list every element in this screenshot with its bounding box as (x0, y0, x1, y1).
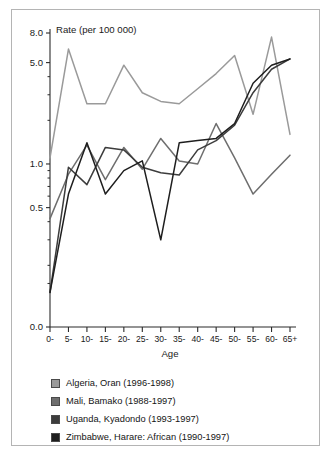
legend-item[interactable]: Algeria, Oran (1996-1998) (0, 374, 331, 392)
y-axis-title: Rate (per 100 000) (56, 24, 137, 35)
legend-swatch-icon (51, 433, 60, 442)
x-tick-label: 40- (191, 334, 204, 344)
y-tick-label: 5.0 (30, 57, 43, 68)
series-line (50, 37, 290, 158)
legend-item[interactable]: Uganda, Kyadondo (1993-1997) (0, 410, 331, 428)
y-tick-label: 0.0 (30, 321, 43, 332)
line-chart: 8.05.01.00.50.0 0-5-10-15-20-25-30-35-40… (0, 0, 331, 380)
x-tick-label: 15- (99, 334, 112, 344)
x-tick-label: 65+ (283, 334, 298, 344)
y-axis: 8.05.01.00.50.0 (30, 27, 50, 332)
legend-item-label: Zimbabwe, Harare: African (1990-1997) (66, 432, 229, 442)
x-tick-label: 25- (136, 334, 149, 344)
y-tick-label: 8.0 (30, 27, 43, 38)
legend-swatch-icon (51, 415, 60, 424)
x-tick-label: 60- (265, 334, 278, 344)
data-series-group (50, 37, 290, 292)
legend-swatch-icon (51, 379, 60, 388)
x-tick-label: 55- (247, 334, 260, 344)
legend-swatch-icon (51, 397, 60, 406)
x-axis-title: Age (161, 348, 178, 359)
series-line (50, 124, 290, 219)
x-tick-label: 45- (210, 334, 223, 344)
legend-item[interactable]: Zimbabwe, Harare: African (1990-1997) (0, 428, 331, 446)
x-tick-label: 50- (228, 334, 241, 344)
legend-item[interactable]: Mali, Bamako (1988-1997) (0, 392, 331, 410)
x-tick-label: 10- (81, 334, 94, 344)
legend-item-label: Mali, Bamako (1988-1997) (66, 396, 176, 406)
x-tick-label: 5- (65, 334, 73, 344)
legend-item-label: Algeria, Oran (1996-1998) (66, 378, 174, 388)
x-tick-label: 20- (118, 334, 131, 344)
y-tick-label: 0.5 (30, 202, 43, 213)
figure-container: 8.05.01.00.50.0 0-5-10-15-20-25-30-35-40… (0, 0, 331, 457)
x-axis: 0-5-10-15-20-25-30-35-40-45-50-55-60-65+ (46, 327, 297, 344)
y-tick-label: 1.0 (30, 158, 43, 169)
chart-legend: Algeria, Oran (1996-1998) Mali, Bamako (… (0, 374, 331, 446)
chart-plot-area: 8.05.01.00.50.0 0-5-10-15-20-25-30-35-40… (0, 0, 331, 380)
series-line (50, 59, 290, 293)
x-tick-label: 35- (173, 334, 186, 344)
x-tick-label: 30- (155, 334, 168, 344)
legend-item-label: Uganda, Kyadondo (1993-1997) (66, 414, 199, 424)
series-line (50, 59, 290, 293)
x-tick-label: 0- (46, 334, 54, 344)
